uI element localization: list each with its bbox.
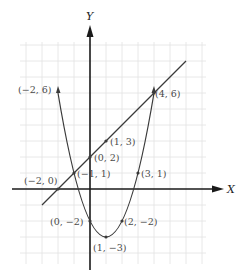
point-0-2	[88, 155, 91, 158]
label-2-m2: (2, −2)	[124, 216, 158, 227]
point-m1-1	[72, 171, 75, 174]
parabola-left-arrow-icon	[56, 86, 61, 93]
x-axis-arrow-icon	[212, 186, 224, 193]
label-1-3: (1, 3)	[110, 136, 136, 147]
point-1-m3	[104, 235, 107, 238]
label-4-6: (4, 6)	[155, 88, 181, 99]
y-axis-label: Y	[86, 10, 95, 23]
x-axis-label: X	[226, 183, 236, 196]
point-0-m2	[88, 219, 91, 222]
line-y-equals-x-plus-2	[42, 61, 186, 205]
label-m2-6: (−2, 6)	[18, 84, 52, 95]
point-3-1	[136, 171, 139, 174]
point-1-3	[104, 139, 107, 142]
label-m1-1: (−1, 1)	[77, 168, 111, 179]
graph-canvas: X Y (−2, 6) (4, 6) (1, 3) (0, 2) (−1, 1)…	[0, 0, 244, 280]
label-1-m3: (1, −3)	[93, 242, 127, 253]
y-axis-arrow-icon	[87, 25, 94, 37]
label-m2-0: (−2, 0)	[24, 175, 58, 186]
label-0-m2: (0, −2)	[50, 216, 84, 227]
label-3-1: (3, 1)	[141, 168, 167, 179]
point-m2-0	[56, 187, 59, 190]
label-0-2: (0, 2)	[94, 152, 120, 163]
